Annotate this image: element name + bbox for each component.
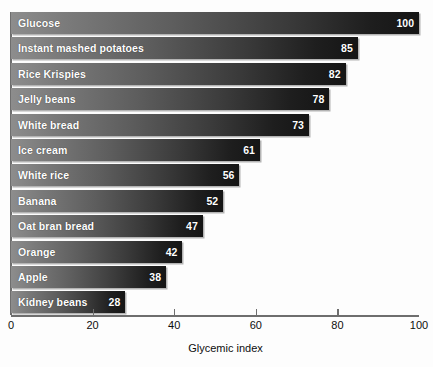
bar-category-label: Kidney beans <box>18 296 87 308</box>
value-axis-line <box>11 315 419 317</box>
bar: Apple38 <box>11 266 166 288</box>
bar: Jelly beans78 <box>11 88 329 110</box>
bar-category-label: Banana <box>18 195 57 207</box>
bar: Rice Krispies82 <box>11 63 346 85</box>
bar-value-label: 56 <box>223 169 235 181</box>
bar-value-label: 38 <box>149 271 161 283</box>
x-axis-tick-label: 40 <box>168 319 180 331</box>
bar-value-label: 78 <box>313 93 325 105</box>
bar-value-label: 73 <box>292 119 304 131</box>
bar-value-label: 61 <box>243 144 255 156</box>
bar-category-label: White rice <box>18 169 69 181</box>
x-axis-tick-label: 20 <box>86 319 98 331</box>
bar-row: Banana52 <box>11 190 223 212</box>
bar-row: White rice56 <box>11 164 239 186</box>
x-axis-tick-label: 100 <box>410 319 428 331</box>
x-axis-tick <box>174 309 175 315</box>
bar: Instant mashed potatoes85 <box>11 37 358 59</box>
bar-value-label: 100 <box>396 17 414 29</box>
bar-value-label: 47 <box>186 220 198 232</box>
bar-category-label: White bread <box>18 119 79 131</box>
bar-row: Ice cream61 <box>11 139 260 161</box>
bar-category-label: Ice cream <box>18 144 67 156</box>
glycemic-index-bar-chart: Glucose100Instant mashed potatoes85Rice … <box>0 0 433 367</box>
bar-value-label: 82 <box>329 68 341 80</box>
x-axis-tick-label: 60 <box>250 319 262 331</box>
bar: Orange42 <box>11 241 182 263</box>
bar: White bread73 <box>11 114 309 136</box>
bar-category-label: Orange <box>18 246 55 258</box>
bar-category-label: Glucose <box>18 17 60 29</box>
plot-area: Glucose100Instant mashed potatoes85Rice … <box>11 12 419 315</box>
bar-value-label: 42 <box>166 246 178 258</box>
bar: Ice cream61 <box>11 139 260 161</box>
bar-row: Apple38 <box>11 266 166 288</box>
bar-category-label: Instant mashed potatoes <box>18 42 144 54</box>
bar-row: White bread73 <box>11 114 309 136</box>
x-axis-tick <box>337 309 338 315</box>
bar-category-label: Oat bran bread <box>18 220 94 232</box>
bar-row: Glucose100 <box>11 12 419 34</box>
bar-category-label: Apple <box>18 271 48 283</box>
bar-category-label: Rice Krispies <box>18 68 86 80</box>
bar: Glucose100 <box>11 12 419 34</box>
bar: Oat bran bread47 <box>11 215 203 237</box>
x-axis-tick <box>93 309 94 315</box>
x-axis-tick-label: 80 <box>331 319 343 331</box>
bar-value-label: 85 <box>341 42 353 54</box>
bar-row: Kidney beans28 <box>11 291 125 313</box>
bar-row: Oat bran bread47 <box>11 215 203 237</box>
bar: White rice56 <box>11 164 239 186</box>
x-axis-tick <box>256 309 257 315</box>
bar-category-label: Jelly beans <box>18 93 76 105</box>
bar-row: Rice Krispies82 <box>11 63 346 85</box>
bar: Banana52 <box>11 190 223 212</box>
bar: Kidney beans28 <box>11 291 125 313</box>
x-axis-tick-label: 0 <box>8 319 14 331</box>
bar-row: Instant mashed potatoes85 <box>11 37 358 59</box>
bar-value-label: 52 <box>206 195 218 207</box>
bar-row: Jelly beans78 <box>11 88 329 110</box>
bar-row: Orange42 <box>11 241 182 263</box>
x-axis-title: Glycemic index <box>0 342 433 354</box>
bar-value-label: 28 <box>109 296 121 308</box>
